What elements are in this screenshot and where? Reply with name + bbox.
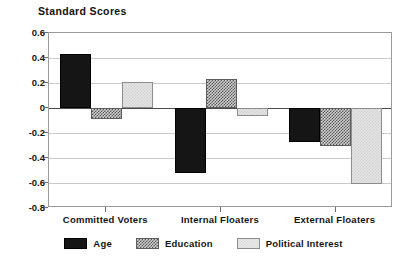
plot-area (48, 32, 392, 207)
legend-item-political: Political Interest (237, 238, 343, 249)
legend-label: Age (93, 238, 112, 249)
chart-title: Standard Scores (38, 5, 127, 17)
y-axis-tick-label: -0.8 (0, 202, 45, 213)
y-axis-tick-label: 0.4 (0, 52, 45, 63)
legend-item-age: Age (64, 238, 112, 249)
bar-political-0 (122, 82, 153, 108)
bar-age-1 (175, 108, 206, 173)
legend-swatch-political-icon (237, 238, 260, 249)
legend-item-education: Education (136, 238, 213, 249)
y-axis-tick-label: -0.2 (0, 127, 45, 138)
x-axis-category-label: Internal Floaters (181, 214, 259, 225)
bar-education-0 (91, 108, 122, 119)
bar-education-2 (320, 108, 351, 146)
legend-swatch-age-icon (64, 238, 87, 249)
x-axis-category-label: External Floaters (294, 214, 375, 225)
gridline (49, 158, 391, 159)
x-axis-tick-mark (335, 207, 336, 212)
x-axis-category-label: Committed Voters (63, 214, 148, 225)
bar-education-1 (206, 79, 237, 108)
bar-political-1 (237, 108, 268, 116)
y-axis-tick-label: -0.6 (0, 177, 45, 188)
y-axis-tick-label: 0 (0, 102, 45, 113)
gridline (49, 58, 391, 59)
bar-age-2 (289, 108, 320, 142)
bar-age-0 (60, 54, 91, 108)
gridline (49, 183, 391, 184)
x-axis-tick-mark (220, 207, 221, 212)
y-axis-tick-mark (44, 207, 48, 208)
legend-label: Political Interest (266, 238, 343, 249)
y-axis-tick-label: 0.2 (0, 77, 45, 88)
x-axis-tick-mark (105, 207, 106, 212)
standard-scores-bar-chart: Standard Scores 0.60.40.20-0.2-0.4-0.6-0… (0, 0, 407, 268)
y-axis-tick-label: -0.4 (0, 152, 45, 163)
y-axis-tick-label: 0.6 (0, 27, 45, 38)
bar-political-2 (351, 108, 382, 184)
legend-label: Education (165, 238, 213, 249)
chart-legend: AgeEducationPolitical Interest (0, 238, 407, 249)
legend-swatch-education-icon (136, 238, 159, 249)
